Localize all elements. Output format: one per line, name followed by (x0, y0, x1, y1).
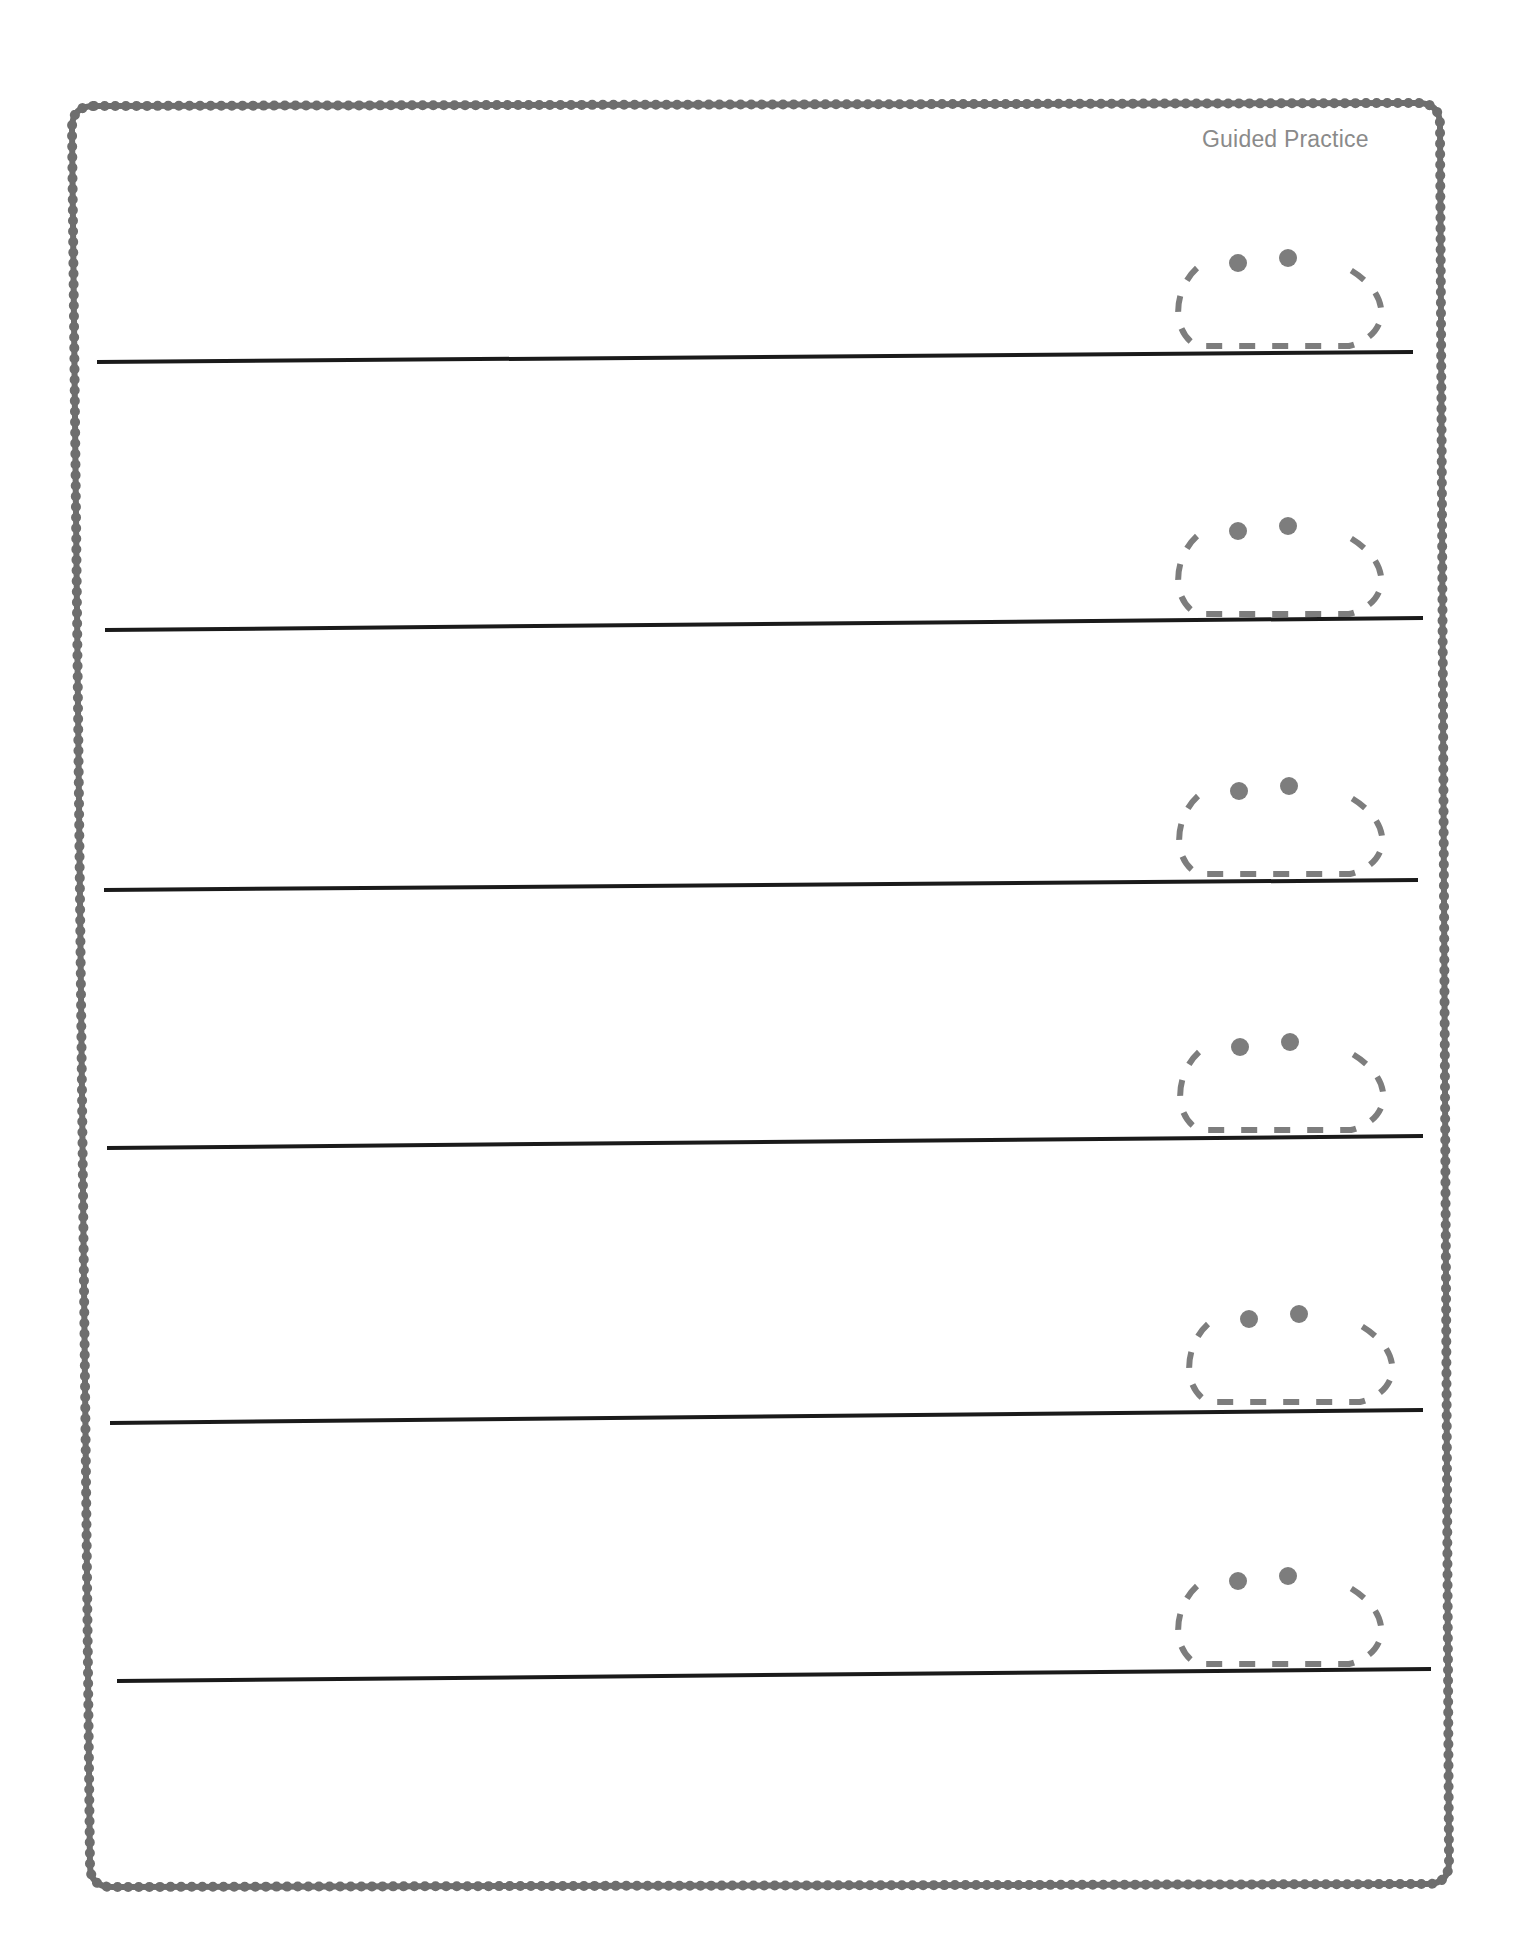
writing-lines (97, 352, 1431, 1681)
umlaut-dot-right (1279, 517, 1297, 535)
writing-line[interactable] (110, 1410, 1423, 1423)
page-header-label: Guided Practice (1202, 126, 1369, 153)
border-scallops (72, 103, 1449, 1887)
dashed-loop-guide (1179, 791, 1382, 874)
umlaut-dot-right (1290, 1305, 1308, 1323)
scalloped-page-border (72, 103, 1449, 1887)
umlaut-dot-left (1229, 522, 1247, 540)
writing-line[interactable] (97, 352, 1413, 362)
dashed-loop-guide (1180, 1047, 1383, 1130)
writing-line[interactable] (104, 880, 1418, 890)
umlaut-dot-right (1279, 1567, 1297, 1585)
umlaut-dot-right (1281, 1033, 1299, 1051)
umlaut-dot-right (1279, 249, 1297, 267)
trace-letter-guides (1178, 249, 1392, 1664)
dashed-loop-guide (1178, 263, 1381, 346)
umlaut-dot-left (1229, 1572, 1247, 1590)
trace-letter-a-umlaut (1179, 777, 1382, 874)
umlaut-dot-left (1231, 1038, 1249, 1056)
border-base (72, 103, 1449, 1887)
dashed-loop-guide (1189, 1319, 1392, 1402)
umlaut-dot-left (1240, 1310, 1258, 1328)
dashed-loop-guide (1178, 1581, 1381, 1664)
umlaut-dot-left (1229, 254, 1247, 272)
trace-letter-a-umlaut (1180, 1033, 1383, 1130)
dashed-loop-guide (1178, 531, 1381, 614)
trace-letter-a-umlaut (1189, 1305, 1392, 1402)
writing-line[interactable] (105, 618, 1423, 630)
writing-line[interactable] (107, 1136, 1423, 1148)
umlaut-dot-right (1280, 777, 1298, 795)
writing-line[interactable] (117, 1669, 1431, 1681)
umlaut-dot-left (1230, 782, 1248, 800)
trace-letter-a-umlaut (1178, 249, 1381, 346)
worksheet-canvas (0, 0, 1523, 1957)
trace-letter-a-umlaut (1178, 1567, 1381, 1664)
trace-letter-a-umlaut (1178, 517, 1381, 614)
